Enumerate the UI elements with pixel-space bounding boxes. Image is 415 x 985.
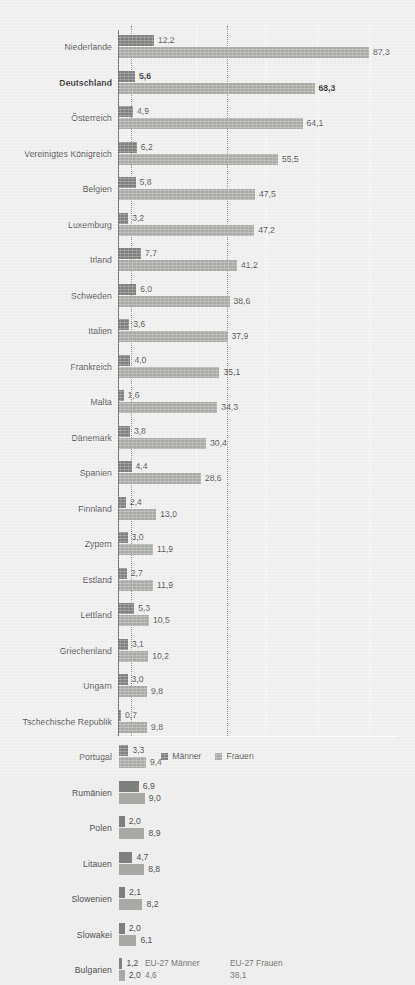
- chart-row: Belgien5,847,5: [0, 174, 415, 209]
- value-label-maenner: 4,9: [137, 106, 149, 116]
- value-label-maenner: 2,7: [131, 568, 143, 578]
- value-label-maenner: 5,3: [138, 603, 150, 613]
- value-label-frauen: 9,8: [151, 686, 163, 696]
- chart-row: Slowakei2,06,1: [0, 920, 415, 955]
- bar-frauen: [119, 402, 217, 413]
- bar-frauen: [119, 83, 315, 94]
- value-label-frauen: 47,5: [259, 189, 276, 199]
- value-label-maenner: 1,2: [126, 958, 138, 968]
- bar-frauen: [119, 189, 255, 200]
- value-label-frauen: 8,8: [148, 864, 160, 874]
- bar-maenner: [119, 390, 124, 401]
- value-label-maenner: 1,6: [128, 390, 140, 400]
- bar-frauen: [119, 722, 147, 733]
- category-label: Polen: [0, 823, 112, 833]
- bar-frauen: [119, 828, 144, 839]
- eu27-maenner-annotation-label: EU-27 Männer: [145, 958, 199, 969]
- value-label-maenner: 2,0: [129, 923, 141, 933]
- bar-frauen: [119, 47, 369, 58]
- category-label: Zypern: [0, 539, 112, 549]
- bar-frauen: [119, 615, 149, 626]
- category-label: Bulgarien: [0, 965, 112, 975]
- chart-row: Ungarn3,09,8: [0, 671, 415, 706]
- category-label: Schweden: [0, 291, 112, 301]
- value-label-maenner: 6,0: [140, 284, 152, 294]
- bar-maenner: [119, 710, 121, 721]
- value-label-frauen: 30,4: [210, 438, 227, 448]
- chart-row: Luxemburg3,247,2: [0, 210, 415, 245]
- legend-label-frauen: Frauen: [226, 751, 253, 761]
- legend-item-frauen: Frauen: [215, 751, 253, 761]
- legend-item-maenner: Männer: [161, 751, 201, 761]
- bar-maenner: [119, 781, 139, 792]
- value-label-frauen: 9,0: [149, 793, 161, 803]
- bar-frauen: [119, 154, 278, 165]
- bar-maenner: [119, 177, 136, 188]
- value-label-maenner: 3,1: [132, 639, 144, 649]
- category-label: Rumänien: [0, 788, 112, 798]
- value-label-maenner: 6,2: [141, 142, 153, 152]
- bar-frauen: [119, 118, 303, 129]
- bar-maenner: [119, 497, 126, 508]
- bar-maenner: [119, 284, 136, 295]
- chart-row: Frankreich4,035,1: [0, 352, 415, 387]
- value-label-frauen: 28,6: [205, 473, 222, 483]
- bar-maenner: [119, 958, 122, 969]
- bar-frauen: [119, 296, 230, 307]
- category-label: Slowenien: [0, 894, 112, 904]
- chart-row: Dänemark3,830,4: [0, 423, 415, 458]
- bar-frauen: [119, 473, 201, 484]
- bar-maenner: [119, 213, 128, 224]
- category-label: Estland: [0, 575, 112, 585]
- chart-row: Griechenland3,110,2: [0, 636, 415, 671]
- bar-maenner: [119, 852, 132, 863]
- bar-maenner: [119, 106, 133, 117]
- bar-frauen: [119, 580, 153, 591]
- chart-row: Malta1,634,3: [0, 387, 415, 422]
- category-label: Malta: [0, 397, 112, 407]
- value-label-maenner: 4,7: [136, 852, 148, 862]
- value-label-maenner: 3,2: [132, 213, 144, 223]
- legend-swatch-maenner-icon: [161, 753, 168, 760]
- chart-row: Finnland2,413,0: [0, 494, 415, 529]
- bar-maenner: [119, 887, 125, 898]
- value-label-maenner: 12,2: [158, 35, 175, 45]
- category-label: Niederlande: [0, 42, 112, 52]
- value-label-maenner: 3,0: [132, 532, 144, 542]
- chart-row: Niederlande12,287,3: [0, 32, 415, 67]
- category-label: Spanien: [0, 468, 112, 478]
- bar-frauen: [119, 544, 153, 555]
- value-label-frauen: 64,1: [307, 118, 324, 128]
- value-label-frauen: 47,2: [258, 225, 275, 235]
- value-label-maenner: 2,1: [129, 887, 141, 897]
- bar-frauen: [119, 970, 125, 981]
- category-label: Finnland: [0, 504, 112, 514]
- value-label-frauen: 55,5: [282, 154, 299, 164]
- bar-frauen: [119, 225, 254, 236]
- value-label-frauen: 38,6: [234, 296, 251, 306]
- value-label-frauen: 10,2: [152, 651, 169, 661]
- category-label: Lettland: [0, 610, 112, 620]
- chart-row: Österreich4,964,1: [0, 103, 415, 138]
- value-label-frauen: 10,5: [153, 615, 170, 625]
- value-label-maenner: 0,7: [125, 710, 137, 720]
- bar-maenner: [119, 71, 135, 82]
- legend-label-maenner: Männer: [172, 751, 201, 761]
- value-label-frauen: 35,1: [223, 367, 240, 377]
- chart-row: Slowenien2,18,2: [0, 884, 415, 919]
- bar-maenner: [119, 674, 128, 685]
- bar-maenner: [119, 248, 141, 259]
- bar-frauen: [119, 260, 237, 271]
- chart-row: Tschechische Republik0,79,8: [0, 707, 415, 742]
- value-label-frauen: 34,3: [221, 402, 238, 412]
- category-label: Österreich: [0, 113, 112, 123]
- value-label-maenner: 4,0: [134, 355, 146, 365]
- category-label: Ungarn: [0, 681, 112, 691]
- category-label: Belgien: [0, 184, 112, 194]
- value-label-maenner: 2,4: [130, 497, 142, 507]
- chart-row: Polen2,08,9: [0, 813, 415, 848]
- chart-row: Spanien4,428,6: [0, 458, 415, 493]
- category-label: Vereinigtes Königreich: [0, 149, 112, 159]
- bar-maenner: [119, 639, 128, 650]
- category-label: Tschechische Republik: [0, 717, 112, 727]
